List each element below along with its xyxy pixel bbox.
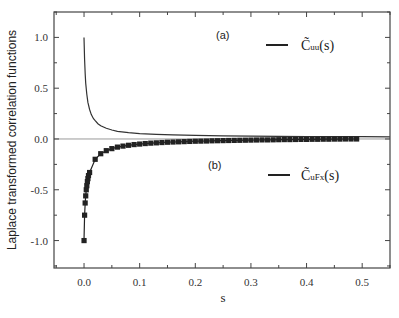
y-tick-label: 1.0	[34, 31, 48, 43]
square-marker-icon	[265, 137, 270, 142]
square-marker-icon	[259, 137, 264, 142]
square-marker-icon	[137, 141, 142, 146]
square-marker-icon	[215, 138, 220, 143]
chart: 0.00.10.20.30.40.5-1.0-0.50.00.51.0 Lapl…	[0, 0, 399, 318]
square-marker-icon	[326, 137, 331, 142]
square-marker-icon	[298, 137, 303, 142]
square-marker-icon	[271, 137, 276, 142]
square-marker-icon	[154, 140, 159, 145]
square-marker-icon	[204, 138, 209, 143]
square-marker-icon	[126, 143, 131, 148]
legend-tail: (s)	[324, 168, 339, 184]
y-tick-label: 0.0	[34, 133, 48, 145]
x-tick-label: 0.0	[77, 276, 91, 288]
series-line-uFx	[84, 139, 357, 241]
square-marker-icon	[193, 139, 198, 144]
square-marker-icon	[176, 139, 181, 144]
legend-label-uu: C̃uu(s)	[301, 37, 334, 54]
square-marker-icon	[293, 137, 298, 142]
square-marker-icon	[82, 213, 87, 218]
square-marker-icon	[304, 137, 309, 142]
square-marker-icon	[83, 200, 88, 205]
square-marker-icon	[321, 137, 326, 142]
square-marker-icon	[343, 136, 348, 141]
square-marker-icon	[315, 137, 320, 142]
square-marker-icon	[104, 148, 109, 153]
square-marker-icon	[237, 138, 242, 143]
legend-main: C̃	[301, 167, 310, 183]
square-marker-icon	[282, 137, 287, 142]
square-marker-icon	[276, 137, 281, 142]
legend-sub: uFx	[310, 172, 325, 182]
square-marker-icon	[226, 138, 231, 143]
square-marker-icon	[310, 137, 315, 142]
y-tick-label: -1.0	[31, 235, 49, 247]
square-marker-icon	[148, 141, 153, 146]
square-marker-icon	[115, 145, 120, 150]
square-marker-icon	[98, 151, 103, 156]
square-marker-icon	[248, 138, 253, 143]
square-marker-icon	[221, 138, 226, 143]
square-marker-icon	[332, 136, 337, 141]
square-marker-icon	[93, 157, 98, 162]
series-line-uu	[84, 37, 390, 136]
panel-label-a: (a)	[216, 29, 229, 41]
square-marker-icon	[187, 139, 192, 144]
square-marker-icon	[143, 141, 148, 146]
square-marker-icon	[254, 137, 259, 142]
legend-uFx: C̃uFx(s)	[268, 167, 339, 184]
y-tick-label: 0.5	[34, 82, 48, 94]
square-marker-icon	[354, 136, 359, 141]
x-tick-label: 0.1	[133, 276, 147, 288]
square-marker-icon	[243, 138, 248, 143]
square-marker-icon	[182, 139, 187, 144]
plot-area	[54, 37, 390, 243]
x-tick-label: 0.3	[244, 276, 258, 288]
square-marker-icon	[198, 139, 203, 144]
square-marker-icon	[170, 139, 175, 144]
y-axis-title: Laplace transformed correlation function…	[5, 30, 19, 250]
legend-tail: (s)	[319, 38, 334, 54]
legend-uu: C̃uu(s)	[266, 37, 334, 54]
legend-main: C̃	[301, 37, 310, 53]
panel-label-b: (b)	[208, 159, 221, 171]
square-marker-icon	[120, 143, 125, 148]
square-marker-icon	[337, 136, 342, 141]
x-axis-title: s	[220, 290, 225, 305]
square-marker-icon	[287, 137, 292, 142]
square-marker-icon	[83, 193, 88, 198]
square-marker-icon	[209, 138, 214, 143]
y-tick-label: -0.5	[31, 184, 49, 196]
x-tick-label: 0.4	[300, 276, 314, 288]
x-tick-label: 0.5	[355, 276, 369, 288]
square-marker-icon	[348, 136, 353, 141]
legend-label-uFx: C̃uFx(s)	[301, 167, 339, 184]
square-marker-icon	[81, 238, 86, 243]
square-marker-icon	[232, 138, 237, 143]
x-tick-label: 0.2	[188, 276, 202, 288]
square-marker-icon	[159, 140, 164, 145]
square-marker-icon	[132, 142, 137, 147]
square-marker-icon	[165, 140, 170, 145]
square-marker-icon	[109, 146, 114, 151]
square-marker-icon	[87, 170, 92, 175]
